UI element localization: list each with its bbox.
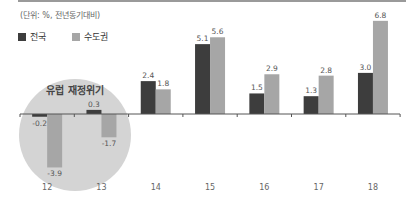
x-label: 17 bbox=[314, 183, 324, 192]
bar bbox=[141, 81, 156, 114]
bar bbox=[101, 114, 116, 137]
bar bbox=[319, 76, 334, 114]
x-label: 13 bbox=[96, 183, 106, 192]
crisis-label: 유럽 재정위기 bbox=[46, 84, 103, 96]
data-label: -3.9 bbox=[47, 169, 62, 178]
data-label: -1.7 bbox=[102, 139, 117, 148]
data-label: 5.1 bbox=[197, 34, 209, 43]
x-label: 12 bbox=[42, 183, 52, 192]
bar bbox=[358, 73, 373, 114]
bar bbox=[249, 93, 264, 114]
x-label: 18 bbox=[368, 183, 378, 192]
bar bbox=[210, 37, 225, 114]
bar bbox=[373, 21, 388, 114]
bar-chart: 유럽 재정위기 -0.2-3.90.3-1.72.41.85.15.61.52.… bbox=[0, 0, 416, 206]
bar bbox=[264, 74, 279, 114]
data-label: 1.3 bbox=[305, 86, 317, 95]
data-label: 2.8 bbox=[320, 66, 332, 75]
data-label: 1.5 bbox=[251, 83, 263, 92]
data-label: -0.2 bbox=[32, 119, 47, 128]
bar bbox=[47, 114, 62, 167]
x-label: 16 bbox=[259, 183, 269, 192]
bar bbox=[195, 44, 210, 114]
data-label: 6.8 bbox=[374, 11, 386, 20]
data-label: 2.9 bbox=[266, 64, 278, 73]
data-label: 2.4 bbox=[142, 71, 154, 80]
bar bbox=[156, 89, 171, 114]
data-label: 5.6 bbox=[212, 27, 224, 36]
x-label: 14 bbox=[151, 183, 161, 192]
bar bbox=[86, 110, 101, 114]
x-label: 15 bbox=[205, 183, 215, 192]
data-label: 3.0 bbox=[359, 63, 371, 72]
data-label: 0.3 bbox=[88, 100, 100, 109]
bar bbox=[304, 96, 319, 114]
data-label: 1.8 bbox=[157, 79, 169, 88]
